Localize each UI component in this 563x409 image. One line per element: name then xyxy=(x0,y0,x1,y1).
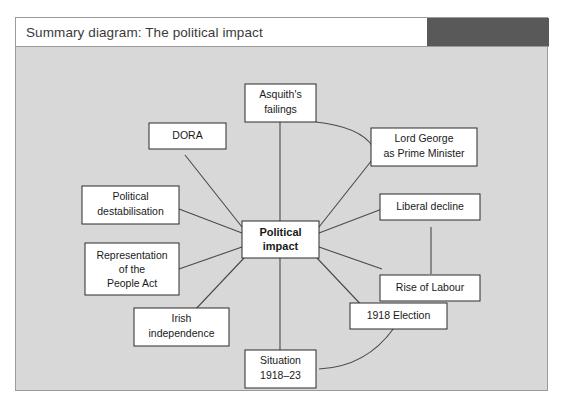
node-asquiths-failings[interactable]: Asquith's failings xyxy=(245,84,316,122)
screenshot-page: Summary diagram: The political impact xyxy=(0,0,563,409)
spoke-to-political-destabilisation xyxy=(179,209,242,233)
spoke-to-dora xyxy=(185,155,242,227)
node-asquiths-failings-line-2: failings xyxy=(264,103,297,115)
node-1918-election-label: 1918 Election xyxy=(367,309,431,321)
node-lord-george-pm[interactable]: Lord George as Prime Minister xyxy=(371,128,477,166)
node-situation-line-2: 1918–23 xyxy=(260,369,301,381)
node-political-impact-line-1: Political xyxy=(259,226,301,238)
spoke-to-irish-independence xyxy=(194,258,244,311)
node-political-impact-line-2: impact xyxy=(263,240,299,252)
arc-1918-election-to-situation xyxy=(319,328,394,369)
figure-frame: Summary diagram: The political impact xyxy=(15,17,548,391)
node-political-impact-center[interactable]: Political impact xyxy=(242,221,319,258)
node-liberal-decline-label: Liberal decline xyxy=(396,200,464,212)
node-irish-independence[interactable]: Irish independence xyxy=(134,308,229,346)
node-lord-george-pm-line-1: Lord George xyxy=(395,132,454,144)
node-dora[interactable]: DORA xyxy=(149,123,226,149)
node-lord-george-pm-line-2: as Prime Minister xyxy=(383,147,465,159)
arc-asquiths-to-lord-george xyxy=(316,122,373,147)
mind-map-svg: Asquith's failings Lord George as Prime … xyxy=(16,47,547,390)
node-dora-label: DORA xyxy=(172,129,202,141)
node-situation-line-1: Situation xyxy=(260,354,301,366)
figure-title-bar: Summary diagram: The political impact xyxy=(16,18,549,47)
node-rise-of-labour-label: Rise of Labour xyxy=(396,281,465,293)
node-political-destabilisation-line-2: destabilisation xyxy=(97,205,164,217)
spoke-to-representation-people-act xyxy=(179,247,242,269)
node-1918-election[interactable]: 1918 Election xyxy=(350,303,447,329)
node-political-destabilisation-line-1: Political xyxy=(112,190,148,202)
node-rise-of-labour[interactable]: Rise of Labour xyxy=(380,275,480,301)
spoke-to-liberal-decline xyxy=(319,209,382,233)
node-representation-line-2: of the xyxy=(119,263,145,275)
node-irish-independence-line-1: Irish xyxy=(172,312,192,324)
title-accent-block xyxy=(427,18,549,46)
spoke-to-lord-george-pm xyxy=(319,155,376,227)
page-title: Summary diagram: The political impact xyxy=(16,25,263,40)
node-asquiths-failings-line-1: Asquith's xyxy=(259,88,301,100)
node-situation-1918-23[interactable]: Situation 1918–23 xyxy=(245,350,316,388)
node-representation-line-3: People Act xyxy=(107,277,157,289)
node-liberal-decline[interactable]: Liberal decline xyxy=(380,194,480,220)
diagram-canvas: Asquith's failings Lord George as Prime … xyxy=(16,47,547,390)
spoke-to-rise-of-labour xyxy=(319,247,382,269)
node-representation-people-act[interactable]: Representation of the People Act xyxy=(85,243,179,295)
node-irish-independence-line-2: independence xyxy=(149,327,215,339)
node-political-destabilisation[interactable]: Political destabilisation xyxy=(82,186,179,224)
node-representation-line-1: Representation xyxy=(96,249,167,261)
